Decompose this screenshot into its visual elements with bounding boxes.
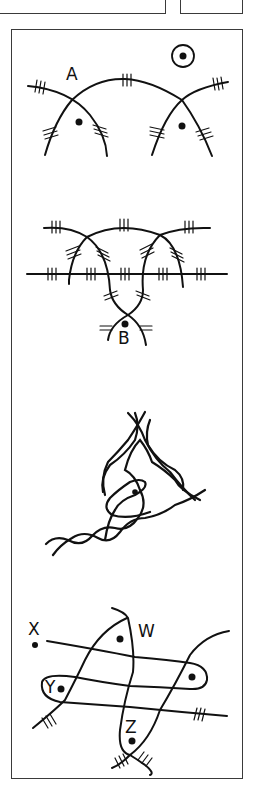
panel-c xyxy=(46,412,205,555)
panel-b: B xyxy=(27,219,227,348)
diagram-canvas: A B xyxy=(0,0,258,802)
label-b: B xyxy=(118,328,130,348)
panel-a: A xyxy=(28,45,228,156)
label-x: X xyxy=(28,619,40,639)
panel-d: X W Y Z xyxy=(28,608,229,775)
label-a: A xyxy=(66,64,78,84)
label-z: Z xyxy=(125,717,137,737)
label-w: W xyxy=(138,621,155,641)
